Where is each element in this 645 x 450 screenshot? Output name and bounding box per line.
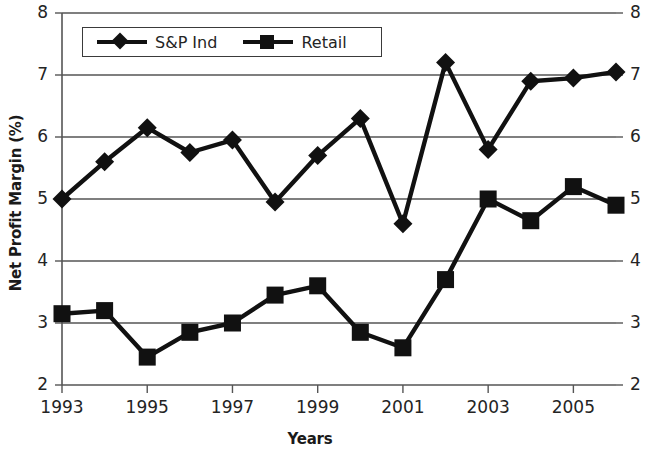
x-tick-label: 2003 [448, 399, 528, 416]
legend-entry-sp-ind: S&P Ind [97, 33, 217, 52]
y-tick-label-left: 4 [20, 252, 48, 269]
y-tick-label-right: 3 [630, 314, 645, 331]
y-tick-label-left: 7 [20, 66, 48, 83]
x-tick-label: 1997 [192, 399, 272, 416]
y-tick-label-right: 6 [630, 128, 645, 145]
x-tick-label: 2001 [363, 399, 443, 416]
y-tick-label-left: 8 [20, 4, 48, 21]
x-tick-label: 1999 [278, 399, 358, 416]
x-tick-label: 1995 [107, 399, 187, 416]
gridlines [62, 13, 616, 385]
y-tick-label-right: 2 [630, 376, 645, 393]
legend-label-sp-ind: S&P Ind [155, 33, 217, 52]
legend-label-retail: Retail [301, 33, 346, 52]
y-tick-label-right: 5 [630, 190, 645, 207]
y-tick-label-left: 3 [20, 314, 48, 331]
data-series-layer [53, 53, 626, 366]
x-tick-label: 2005 [533, 399, 613, 416]
x-tick-label: 1993 [22, 399, 102, 416]
y-tick-label-left: 6 [20, 128, 48, 145]
chart-legend: S&P Ind Retail [82, 27, 382, 57]
y-tick-label-right: 7 [630, 66, 645, 83]
x-axis-title: Years [260, 430, 360, 448]
legend-entry-retail: Retail [243, 33, 346, 52]
y-tick-label-left: 2 [20, 376, 48, 393]
diamond-marker-icon [97, 33, 147, 51]
y-tick-label-right: 8 [630, 4, 645, 21]
tick-marks [55, 13, 623, 393]
y-tick-label-right: 4 [630, 252, 645, 269]
square-marker-icon [243, 33, 293, 51]
y-tick-label-left: 5 [20, 190, 48, 207]
